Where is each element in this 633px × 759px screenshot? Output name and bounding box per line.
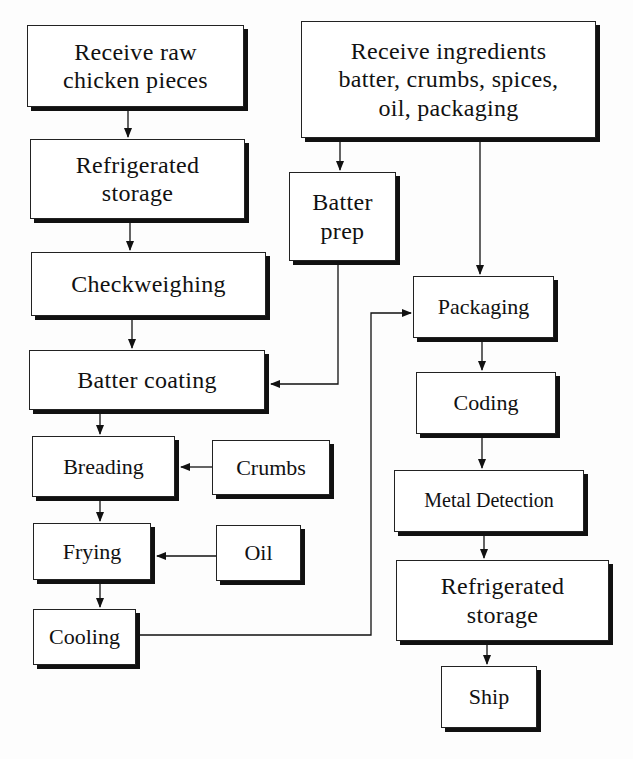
node-label: Frying bbox=[63, 539, 122, 565]
node-receive-ingredients: Receive ingredients batter, crumbs, spic… bbox=[301, 21, 596, 138]
node-label: Oil bbox=[244, 540, 272, 566]
node-label: Batter coating bbox=[77, 366, 216, 394]
node-packaging: Packaging bbox=[413, 276, 554, 338]
node-batter-prep: Batter prep bbox=[289, 172, 396, 261]
node-batter-coating: Batter coating bbox=[29, 350, 265, 410]
node-receive-raw-chicken: Receive raw chicken pieces bbox=[27, 25, 244, 107]
node-label: Refrigerated storage bbox=[76, 151, 200, 208]
node-label: Breading bbox=[63, 454, 144, 480]
node-label: Crumbs bbox=[236, 455, 306, 481]
node-oil: Oil bbox=[216, 525, 301, 581]
node-refrigerated-storage-final: Refrigerated storage bbox=[396, 560, 609, 641]
node-crumbs: Crumbs bbox=[212, 440, 330, 495]
arrow-batter-prep-to-batter-coating bbox=[271, 265, 338, 384]
node-label: Ship bbox=[469, 684, 509, 710]
node-checkweighing: Checkweighing bbox=[31, 252, 266, 316]
node-metal-detection: Metal Detection bbox=[394, 470, 584, 532]
node-label: Batter prep bbox=[312, 188, 372, 245]
node-coding: Coding bbox=[416, 372, 556, 434]
node-ship: Ship bbox=[441, 666, 537, 728]
node-label: Refrigerated storage bbox=[441, 572, 565, 629]
node-label: Checkweighing bbox=[71, 270, 226, 298]
node-label: Metal Detection bbox=[424, 489, 553, 513]
node-refrigerated-storage-raw: Refrigerated storage bbox=[30, 139, 245, 219]
node-label: Receive raw chicken pieces bbox=[63, 38, 208, 95]
node-label: Packaging bbox=[438, 294, 530, 320]
flowchart-canvas: Receive raw chicken pieces Receive ingre… bbox=[0, 0, 633, 759]
node-frying: Frying bbox=[33, 523, 151, 580]
node-cooling: Cooling bbox=[33, 609, 136, 665]
node-breading: Breading bbox=[32, 436, 175, 497]
node-label: Receive ingredients batter, crumbs, spic… bbox=[339, 37, 559, 122]
node-label: Cooling bbox=[49, 624, 120, 650]
node-label: Coding bbox=[454, 390, 519, 416]
